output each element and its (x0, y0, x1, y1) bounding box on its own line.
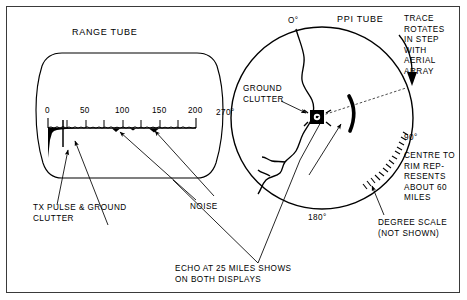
noise-label: NOISE (190, 202, 218, 213)
tx-pulse-label: TX PULSE & GROUND CLUTTER (33, 203, 127, 224)
range-tick-150: 150 (152, 106, 167, 115)
range-tick-200: 200 (188, 106, 203, 115)
ground-clutter-label: GROUND CLUTTER (243, 84, 284, 105)
degree-scale-label: DEGREE SCALE (NOT SHOWN) (378, 218, 447, 239)
ppi-bearing-south: 180° (308, 213, 327, 224)
ppi-ground-clutter (304, 110, 331, 126)
range-tick-50: 50 (80, 106, 90, 115)
diagram-vector-layer (0, 0, 467, 300)
range-tick-0: 0 (45, 106, 50, 115)
diagram-caption: ECHO AT 25 MILES SHOWS ON BOTH DISPLAYS (175, 264, 292, 285)
diagram-stage: RANGE TUBE 0 50 100 150 200 TX PULSE & G… (0, 0, 467, 300)
centre-to-rim-label: CENTRE TO RIM REP- RESENTS ABOUT 60 MILE… (404, 151, 455, 204)
ppi-echo-arc (349, 96, 354, 131)
ppi-bearing-east: 90° (404, 133, 418, 144)
range-tube-outline (36, 53, 223, 178)
range-tube-title: RANGE TUBE (72, 27, 137, 38)
ppi-tube-title: PPI TUBE (337, 14, 383, 25)
ppi-degree-scale-hatches (363, 132, 408, 189)
ppi-bearing-north: O° (288, 16, 299, 27)
ppi-bearing-west: 270° (216, 108, 235, 119)
range-scale-axis (48, 118, 196, 128)
trace-rotates-label: TRACE ROTATES IN STEP WITH AERIAL ARRAY (404, 14, 445, 77)
ppi-trace-line (317, 88, 406, 117)
range-tick-100: 100 (115, 106, 130, 115)
